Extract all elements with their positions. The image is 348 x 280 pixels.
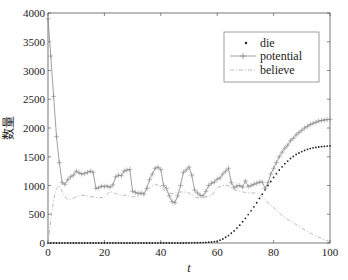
x-tick-label: 0 bbox=[45, 246, 51, 258]
y-tick-label: 3000 bbox=[23, 65, 46, 77]
y-tick-label: 2000 bbox=[23, 122, 46, 134]
x-tick-label: 40 bbox=[155, 246, 167, 258]
x-axis-label: t bbox=[187, 261, 191, 275]
y-tick-label: 500 bbox=[29, 208, 46, 220]
dot-marker-icon bbox=[245, 42, 247, 44]
x-tick-label: 80 bbox=[268, 246, 280, 258]
legend: die potential believe bbox=[224, 32, 319, 82]
y-axis-label: 数量 bbox=[1, 116, 16, 140]
legend-label: potential bbox=[260, 49, 303, 63]
legend-label: die bbox=[260, 36, 275, 50]
x-tick-label: 60 bbox=[212, 246, 224, 258]
y-tick-label: 1000 bbox=[23, 180, 46, 192]
x-tick-label: 20 bbox=[99, 246, 111, 258]
y-tick-label: 2500 bbox=[23, 93, 46, 105]
y-tick-label: 4000 bbox=[23, 7, 46, 19]
y-tick-label: 3500 bbox=[23, 36, 46, 48]
x-tick-label: 100 bbox=[322, 246, 339, 258]
legend-label: believe bbox=[260, 63, 295, 77]
y-tick-label: 1500 bbox=[23, 151, 46, 163]
line-chart: 05001000150020002500300035004000 0204060… bbox=[0, 0, 348, 280]
